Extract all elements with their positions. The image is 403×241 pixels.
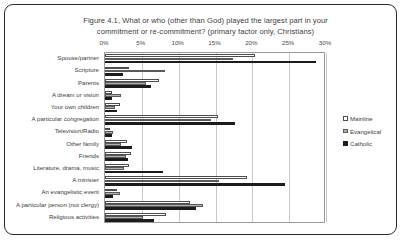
x-axis-tick-label: 15% — [208, 39, 220, 46]
bar-catholic — [105, 171, 163, 174]
y-axis-category-label: Literature, drama, music — [33, 164, 99, 172]
legend-swatch-icon — [343, 129, 348, 134]
y-axis-category-label: Spouse/partner — [57, 54, 99, 62]
x-axis-tick-label: 0% — [100, 39, 109, 46]
bar-catholic — [105, 61, 316, 64]
bar-group — [105, 175, 324, 187]
slide: Figure 4.1, What or who (other than God)… — [0, 0, 403, 241]
x-axis-tick-label: 10% — [171, 39, 183, 46]
bar-catholic — [105, 183, 285, 186]
bar-catholic — [105, 122, 235, 125]
bar-group — [105, 65, 324, 77]
bar-group — [105, 200, 324, 212]
chart-title: Figure 4.1, What or who (other than God)… — [23, 15, 388, 37]
legend-swatch-icon — [343, 141, 348, 146]
bar-catholic — [105, 97, 112, 100]
x-axis-tick-label: 25% — [282, 39, 294, 46]
bar-group — [105, 187, 324, 199]
legend-label: Mainline — [350, 115, 373, 122]
plot-area — [104, 52, 325, 223]
legend-swatch-icon — [343, 116, 348, 121]
bar-group — [105, 126, 324, 138]
legend-item-mainline[interactable]: Mainline — [343, 115, 397, 122]
bar-group — [105, 53, 324, 65]
y-axis-category-label: Religious activities — [49, 213, 99, 221]
y-axis-category-label: A particular congregation — [32, 115, 99, 123]
bar-group — [105, 90, 324, 102]
legend-item-evangelical[interactable]: Evangelical — [343, 128, 397, 135]
legend-item-catholic[interactable]: Catholic — [343, 140, 397, 147]
slide-frame: Figure 4.1, What or who (other than God)… — [4, 4, 397, 235]
y-axis-category-label: Other family — [66, 140, 99, 148]
y-axis-category-label: Television/Radio — [55, 127, 99, 135]
x-axis-ticks: 0%5%10%15%20%25%30% — [13, 39, 398, 51]
bar-catholic — [105, 219, 154, 222]
y-axis-category-label: A minister — [72, 176, 99, 184]
bar-catholic — [105, 134, 112, 137]
bar-catholic — [105, 85, 151, 88]
x-axis-tick-label: 5% — [136, 39, 145, 46]
y-axis-category-label: A dream or vision — [52, 91, 99, 99]
y-axis-category-label: Your own children — [51, 103, 99, 111]
bar-group — [105, 163, 324, 175]
bar-catholic — [105, 158, 128, 161]
chart-legend: MainlineEvangelicalCatholic — [343, 115, 397, 153]
chart-area: 0%5%10%15%20%25%30% Spouse/partnerScript… — [13, 39, 398, 237]
legend-label: Evangelical — [350, 128, 381, 135]
bar-catholic — [105, 110, 117, 113]
x-axis-tick-label: 20% — [245, 39, 257, 46]
y-axis-labels: Spouse/partnerScriptureParentsA dream or… — [13, 52, 102, 223]
bar-catholic — [105, 207, 196, 210]
gridline — [326, 53, 327, 222]
bar-catholic — [105, 73, 123, 76]
y-axis-category-label: An evangelistic event — [41, 188, 99, 196]
bar-catholic — [105, 146, 132, 149]
y-axis-category-label: A particular person (not clergy) — [16, 201, 99, 209]
bar-group — [105, 77, 324, 89]
bar-group — [105, 139, 324, 151]
x-axis-tick-label: 30% — [319, 39, 331, 46]
chart-title-line-1: Figure 4.1, What or who (other than God)… — [23, 15, 388, 26]
legend-label: Catholic — [350, 140, 372, 147]
chart-title-line-2: commitment or re-commitment? (primary fa… — [23, 26, 388, 37]
bar-group — [105, 102, 324, 114]
y-axis-category-label: Scripture — [75, 66, 99, 74]
y-axis-category-label: Parents — [78, 79, 99, 87]
bar-group — [105, 151, 324, 163]
bar-group — [105, 114, 324, 126]
y-axis-category-label: Friends — [79, 152, 99, 160]
bar-catholic — [105, 195, 113, 198]
bar-group — [105, 212, 324, 224]
